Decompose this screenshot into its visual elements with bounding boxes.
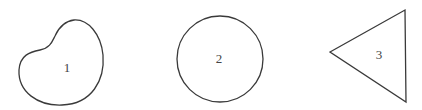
shape-2-circle: 2 — [177, 16, 263, 102]
shape-1-label: 1 — [64, 60, 71, 75]
shapes-diagram: 1 2 3 — [0, 0, 422, 110]
shape-1-blob: 1 — [19, 20, 103, 105]
blob-outline — [19, 20, 103, 105]
shape-2-label: 2 — [216, 51, 223, 66]
shape-3-triangle: 3 — [330, 10, 406, 102]
triangle-outline — [330, 10, 406, 102]
shape-3-label: 3 — [376, 47, 383, 62]
